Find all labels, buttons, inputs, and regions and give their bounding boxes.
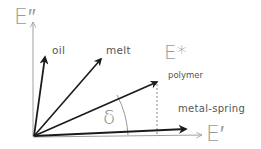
metal-spring-label: metal-spring xyxy=(178,104,245,114)
oil-label: oil xyxy=(52,45,65,56)
y-axis-label: E″ xyxy=(14,6,36,28)
melt-label: melt xyxy=(106,45,131,56)
melt-vector xyxy=(34,59,101,136)
x-axis-label: E′ xyxy=(206,123,224,145)
polymer-label: polymer xyxy=(168,71,203,80)
metal-spring-vector xyxy=(34,129,186,136)
complex-modulus-label: E* xyxy=(164,42,187,62)
polymer-vector xyxy=(34,82,157,136)
delta-angle-arc xyxy=(117,95,128,135)
delta-angle-label: δ xyxy=(103,107,115,127)
